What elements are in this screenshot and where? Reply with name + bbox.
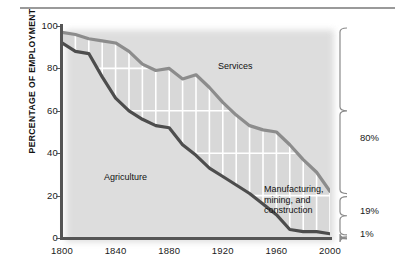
- x-tick-label: 2000: [310, 245, 350, 256]
- brace-label-services: 80%: [360, 132, 379, 143]
- y-tick-mark: [56, 153, 61, 154]
- series-label-manufacturing-line2: mining, and: [264, 195, 324, 206]
- x-axis-line: [60, 237, 332, 240]
- series-label-manufacturing-line3: construction: [264, 205, 324, 216]
- x-tick-label: 1840: [96, 245, 136, 256]
- brace-label-agriculture: 1%: [360, 228, 374, 239]
- y-tick-mark: [56, 196, 61, 197]
- y-tick-mark: [56, 111, 61, 112]
- brace-manufacturing: [340, 197, 347, 235]
- series-label-services: Services: [218, 61, 253, 72]
- x-tick-label: 1800: [42, 245, 82, 256]
- series-label-agriculture: Agriculture: [104, 172, 147, 183]
- y-axis-title: PERCENTAGE OF EMPLOYMENT: [27, 0, 37, 166]
- y-tick-label: 20: [24, 190, 58, 201]
- x-tick-label: 1880: [149, 245, 189, 256]
- x-tick-label: 1920: [203, 245, 243, 256]
- y-tick-mark: [56, 26, 61, 27]
- figure-root: 100806040200 PERCENTAGE OF EMPLOYMENT 18…: [0, 0, 400, 275]
- y-tick-mark: [56, 238, 61, 239]
- y-axis-line: [60, 24, 63, 240]
- y-tick-mark: [56, 68, 61, 69]
- y-tick-layer: 100806040200: [18, 0, 58, 275]
- series-label-manufacturing-line1: Manufacturing,: [264, 184, 324, 195]
- brace-label-manufacturing: 19%: [360, 205, 379, 216]
- y-tick-label: 0: [24, 232, 58, 243]
- series-label-manufacturing: Manufacturing, mining, and construction: [264, 184, 324, 216]
- brace-services: [340, 28, 347, 194]
- x-tick-label: 1960: [256, 245, 296, 256]
- brace-group: [340, 28, 347, 242]
